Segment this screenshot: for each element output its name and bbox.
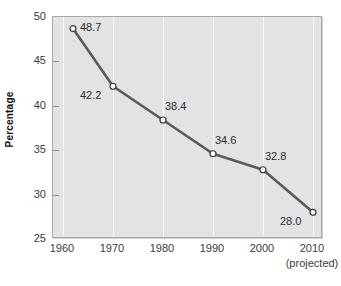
- line-chart-figure: Percentage 253035404550 1960197019801990…: [0, 0, 341, 286]
- data-point-marker: [160, 117, 166, 123]
- x-axis-projected-note: (projected): [269, 258, 341, 269]
- data-point-marker: [260, 167, 266, 173]
- series-line-and-markers: [53, 17, 323, 239]
- series-markers: [70, 26, 316, 216]
- value-label-34.6: 34.6: [215, 135, 236, 146]
- value-label-42.2: 42.2: [80, 90, 101, 101]
- x-tick-label-2010: 2010: [289, 243, 335, 254]
- data-point-marker: [310, 209, 316, 215]
- x-tick-label-1960: 1960: [39, 243, 85, 254]
- y-tick-label-30: 30: [22, 189, 46, 200]
- value-label-38.4: 38.4: [165, 101, 186, 112]
- x-tick-label-2000: 2000: [239, 243, 285, 254]
- value-label-28.0: 28.0: [280, 216, 301, 227]
- y-axis-title-label: Percentage: [5, 91, 16, 147]
- y-tick-label-40: 40: [22, 100, 46, 111]
- x-tick-label-1990: 1990: [189, 243, 235, 254]
- data-point-marker: [70, 26, 76, 32]
- y-tick-label-35: 35: [22, 144, 46, 155]
- data-point-marker: [110, 83, 116, 89]
- x-tick-label-1980: 1980: [139, 243, 185, 254]
- value-label-48.7: 48.7: [80, 22, 101, 33]
- value-label-32.8: 32.8: [265, 151, 286, 162]
- plot-area: [52, 16, 322, 238]
- y-axis-title: Percentage: [2, 0, 18, 238]
- y-tick-label-50: 50: [22, 11, 46, 22]
- y-tick-label-45: 45: [22, 55, 46, 66]
- data-point-marker: [210, 151, 216, 157]
- series-line: [73, 29, 313, 213]
- x-tick-label-1970: 1970: [89, 243, 135, 254]
